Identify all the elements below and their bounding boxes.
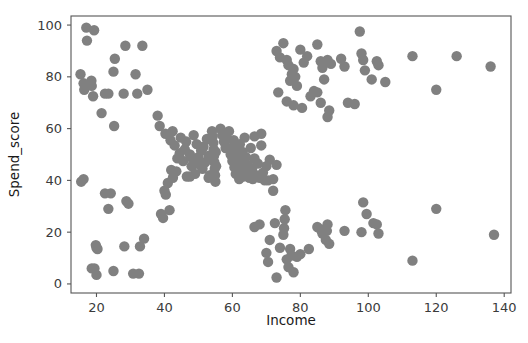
data-point: [339, 61, 349, 71]
data-point: [108, 66, 118, 76]
data-point: [263, 257, 273, 267]
data-point: [152, 110, 162, 120]
data-point: [358, 197, 368, 207]
data-point: [431, 85, 441, 95]
data-point: [203, 173, 213, 183]
data-point: [485, 61, 495, 71]
data-point: [326, 59, 336, 69]
data-point: [407, 255, 417, 265]
data-point: [358, 55, 368, 65]
y-tick-label: 20: [45, 225, 62, 240]
data-point: [407, 51, 417, 61]
y-tick-label: 80: [45, 69, 62, 84]
data-point: [211, 147, 221, 157]
data-point: [261, 248, 271, 258]
data-point: [108, 266, 118, 276]
y-tick-label: 100: [37, 18, 62, 33]
data-point: [75, 69, 85, 79]
data-point: [239, 132, 249, 142]
data-point: [489, 230, 499, 240]
data-point: [355, 26, 365, 36]
data-point: [96, 108, 106, 118]
data-point: [137, 41, 147, 51]
data-point: [92, 244, 102, 254]
data-point: [380, 77, 390, 87]
plot-canvas: 20406080100120140 020406080100 Income Sp…: [0, 0, 528, 343]
data-point: [271, 160, 281, 170]
data-point: [361, 209, 371, 219]
data-point: [271, 272, 281, 282]
x-tick-label: 20: [88, 300, 105, 315]
data-point: [263, 175, 273, 185]
data-point: [431, 204, 441, 214]
y-axis-ticks: 020406080100: [37, 18, 71, 292]
data-point: [339, 226, 349, 236]
data-point: [224, 126, 234, 136]
data-point: [167, 126, 177, 136]
y-tick-label: 40: [45, 173, 62, 188]
data-point: [360, 65, 370, 75]
x-tick-label: 100: [356, 300, 381, 315]
data-point: [319, 74, 329, 84]
y-tick-label: 60: [45, 121, 62, 136]
data-point: [256, 129, 266, 139]
data-point: [82, 35, 92, 45]
data-point: [87, 81, 97, 91]
data-point: [265, 235, 275, 245]
data-point: [366, 74, 376, 84]
data-point: [164, 205, 174, 215]
data-point: [106, 188, 116, 198]
x-axis-title: Income: [266, 312, 316, 328]
data-point: [123, 198, 133, 208]
data-point: [280, 214, 290, 224]
data-point: [89, 263, 99, 273]
data-point: [188, 130, 198, 140]
x-tick-label: 40: [156, 300, 173, 315]
data-point: [268, 186, 278, 196]
x-tick-label: 140: [492, 300, 517, 315]
data-point: [278, 38, 288, 48]
data-point: [211, 161, 221, 171]
data-point: [88, 91, 98, 101]
data-point: [161, 189, 171, 199]
data-point: [256, 140, 266, 150]
data-point: [270, 218, 280, 228]
data-point: [89, 25, 99, 35]
data-point: [78, 174, 88, 184]
data-point: [134, 268, 144, 278]
data-point: [297, 103, 307, 113]
data-point: [373, 228, 383, 238]
x-tick-label: 120: [424, 300, 449, 315]
data-point: [120, 41, 130, 51]
y-tick-label: 0: [54, 276, 62, 291]
data-point: [275, 243, 285, 253]
data-point: [103, 88, 113, 98]
data-markers-layer: [75, 22, 499, 282]
data-point: [324, 239, 334, 249]
data-point: [246, 143, 256, 153]
data-point: [142, 85, 152, 95]
data-point: [451, 51, 461, 61]
data-point: [290, 72, 300, 82]
data-point: [280, 205, 290, 215]
y-axis-title: Spend_score: [6, 112, 22, 198]
data-point: [130, 69, 140, 79]
data-point: [356, 227, 366, 237]
data-point: [279, 223, 289, 233]
data-point: [273, 87, 283, 97]
data-point: [373, 60, 383, 70]
data-point: [322, 219, 332, 229]
data-point: [288, 267, 298, 277]
data-point: [304, 244, 314, 254]
data-point: [372, 219, 382, 229]
data-point: [292, 81, 302, 91]
data-point: [185, 171, 195, 181]
scatter-plot-figure: 20406080100120140 020406080100 Income Sp…: [0, 0, 528, 343]
data-point: [312, 39, 322, 49]
data-point: [119, 241, 129, 251]
data-point: [109, 121, 119, 131]
x-tick-label: 60: [224, 300, 241, 315]
data-point: [324, 105, 334, 115]
data-point: [302, 51, 312, 61]
data-point: [350, 99, 360, 109]
